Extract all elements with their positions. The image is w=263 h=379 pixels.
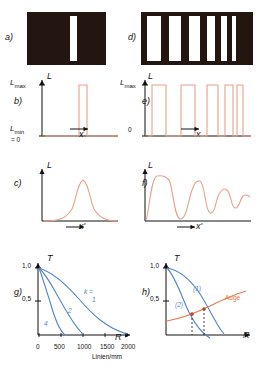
- signal-trace-f: [146, 176, 250, 220]
- target-bar: [189, 16, 200, 61]
- target-bar: [70, 16, 77, 61]
- plot-b: [30, 74, 120, 140]
- axis-label-lmax-b: Lmax: [10, 78, 26, 89]
- signal-trace-e: [145, 85, 251, 136]
- panel-label-h: h): [142, 287, 150, 297]
- panel-label-b: b): [14, 96, 22, 106]
- plot-e: [133, 74, 255, 140]
- xaxis-title-g: Linien/mm: [92, 353, 122, 360]
- panel-label-a: a): [5, 32, 13, 42]
- axis-label-zero-b: = 0: [11, 136, 20, 143]
- target-image-a: [27, 12, 106, 65]
- target-bar: [232, 16, 236, 61]
- signal-trace-c: [44, 180, 118, 221]
- target-image-d: [141, 12, 253, 65]
- target-bar: [221, 16, 227, 61]
- plot-f: [133, 163, 255, 229]
- signal-trace-b: [42, 85, 118, 136]
- intersection-point-2-h: [190, 312, 194, 316]
- sub-max: max: [14, 83, 25, 89]
- target-bar: [207, 16, 215, 61]
- panel-label-c: c): [14, 178, 22, 188]
- curve-k1-g: [39, 268, 127, 334]
- sub-min: min: [14, 129, 24, 135]
- target-bar: [169, 16, 181, 61]
- curve-2-g: [39, 268, 83, 334]
- curve-auge-h: [167, 291, 246, 321]
- intersection-point-1-h: [202, 307, 206, 311]
- plot-g: [30, 255, 140, 345]
- panel-label-g: g): [14, 287, 22, 297]
- curve-2-h: [167, 268, 210, 338]
- figure-mtf-illustration: a) d) b) Lmax Lmin = 0 L x e) Lmax: [0, 0, 263, 379]
- panel-label-d: d): [128, 32, 136, 42]
- axis-label-zero-e: 0: [128, 126, 132, 133]
- target-bar: [147, 16, 162, 61]
- plot-h: [158, 255, 260, 345]
- axis-label-lmin-b: Lmin: [10, 124, 24, 135]
- plot-c: [30, 163, 120, 229]
